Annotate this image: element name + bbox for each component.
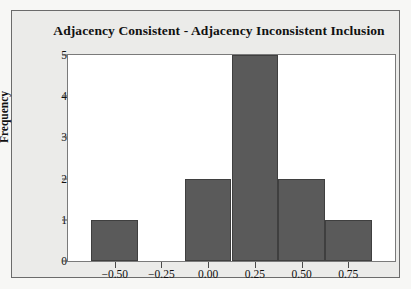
plot-frame (67, 54, 396, 262)
x-tick-label: 0.25 (233, 268, 277, 280)
x-tick-label: −0.50 (93, 268, 137, 280)
y-axis-ticks: 012345 (45, 54, 67, 262)
x-tick-label: 0.50 (280, 268, 324, 280)
plot-area (68, 55, 395, 261)
histogram-bar (232, 55, 279, 261)
x-tick-label: 0.00 (186, 268, 230, 280)
x-axis-ticks: −0.50−0.250.000.250.500.75 (67, 262, 396, 286)
histogram-bar (278, 179, 325, 261)
x-tick-label: −0.25 (139, 268, 183, 280)
y-axis-title: Frequency (0, 91, 10, 143)
x-tick-label: 0.75 (326, 268, 370, 280)
histogram-bar (185, 179, 232, 261)
histogram-bar (325, 220, 372, 261)
histogram-bar (91, 220, 138, 261)
figure-panel: Adjacency Consistent - Adjacency Inconsi… (11, 10, 400, 278)
histogram-figure: Adjacency Consistent - Adjacency Inconsi… (0, 0, 411, 289)
chart-title: Adjacency Consistent - Adjacency Inconsi… (49, 23, 389, 39)
